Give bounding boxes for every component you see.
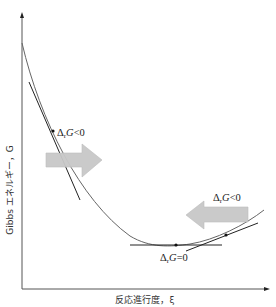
- right-point-label: ΔrG<0: [213, 192, 241, 205]
- left-point-marker: [51, 129, 54, 132]
- left-point-label: ΔrG<0: [57, 127, 85, 140]
- left-tangent-line: [29, 82, 80, 200]
- minimum-point-marker: [174, 243, 177, 246]
- axes: [20, 12, 270, 291]
- right-point-marker: [224, 233, 227, 236]
- x-axis-title: 反応進行度，ξ: [115, 294, 174, 305]
- y-axis-arrowhead-icon: [20, 12, 24, 18]
- y-axis-title: Gibbs エネルギー，G: [5, 145, 15, 234]
- minimum-point-label: ΔrG=0: [160, 252, 188, 265]
- backward-arrow-icon: [186, 201, 248, 229]
- x-axis-arrowhead-icon: [264, 287, 270, 291]
- right-tangent-line: [186, 223, 258, 251]
- gibbs-energy-diagram: ΔrG<0 ΔrG<0 ΔrG=0 Gibbs エネルギー，G 反応進行度，ξ: [0, 0, 276, 307]
